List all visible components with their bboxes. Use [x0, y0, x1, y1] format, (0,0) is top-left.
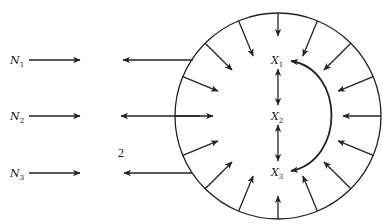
input-n2: N2: [9, 110, 200, 125]
radial-arrow: [338, 77, 373, 92]
network-diagram: N1 N2 N3 2 X1 X2 X3: [0, 0, 391, 224]
label-n1: N1: [9, 54, 24, 69]
radial-arrow: [239, 21, 254, 56]
radial-arrow: [338, 141, 373, 156]
left-inputs: N1 N2 N3 2: [9, 54, 200, 182]
radial-arrow: [303, 21, 318, 56]
label-n2: N2: [9, 110, 24, 125]
input-n3: N3: [9, 167, 192, 182]
radial-arrow: [324, 43, 351, 70]
radial-arrow: [183, 77, 218, 92]
radial-arrow: [205, 162, 232, 189]
radial-arrow: [324, 162, 351, 189]
input-n1: N1: [9, 54, 193, 69]
inner-nodes: X1 X2 X3: [270, 54, 332, 181]
radial-arrow: [183, 141, 218, 156]
label-n3: N3: [9, 167, 24, 182]
curved-arrow-x1-x3: [291, 61, 332, 171]
region-label: 2: [118, 146, 124, 160]
radial-arrow: [239, 176, 254, 211]
label-x2: X2: [270, 110, 283, 125]
radial-arrow: [303, 176, 318, 211]
label-x1: X1: [270, 54, 283, 69]
radial-arrow: [205, 43, 232, 70]
label-x3: X3: [270, 166, 283, 181]
